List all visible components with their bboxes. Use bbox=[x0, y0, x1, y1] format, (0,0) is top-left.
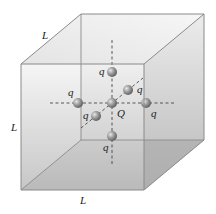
charge-front bbox=[91, 111, 101, 121]
charge-label-right: q bbox=[151, 108, 157, 119]
cube-figure bbox=[0, 0, 216, 214]
edge-label-bottom: L bbox=[80, 195, 86, 206]
charge-label-center: Q bbox=[117, 108, 125, 119]
cube-charge-diagram: L L L q q q q q q Q bbox=[0, 0, 216, 214]
charge-label-bottom: q bbox=[103, 142, 109, 153]
edge-label-left: L bbox=[11, 122, 17, 133]
charge-bottom bbox=[107, 131, 117, 141]
charge-back bbox=[123, 85, 133, 95]
charge-label-front: q bbox=[83, 110, 89, 121]
edge-label-top: L bbox=[42, 30, 48, 41]
charge-label-left: q bbox=[68, 87, 74, 98]
charge-right bbox=[141, 98, 151, 108]
charge-left bbox=[73, 98, 83, 108]
charge-label-back: q bbox=[137, 84, 143, 95]
charge-center-Q bbox=[107, 98, 117, 108]
charge-top bbox=[107, 67, 117, 77]
charge-label-top: q bbox=[99, 66, 105, 77]
